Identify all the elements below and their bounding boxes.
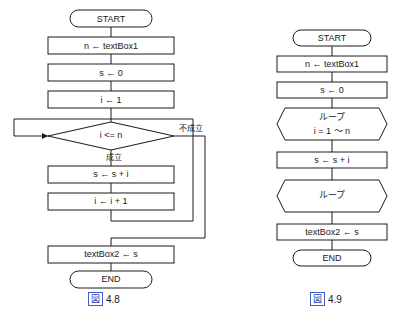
figure-4-9-caption: 図 4.9 (310, 292, 342, 306)
fig49-output-label: textBox2 ← s (305, 227, 359, 237)
fig48-condition-false-label: 不成立 (179, 123, 203, 133)
fig48-output-label: textBox2 ← s (84, 249, 138, 259)
figure-4-9-caption-number: 4.9 (328, 294, 342, 305)
fig49-sum-label: s ← s + i (314, 155, 349, 165)
fig48-exit-path (111, 136, 205, 246)
flowcharts-svg: START n ← textBox1 s ← 0 i ← 1 i <= n 不成… (0, 0, 417, 315)
figure-4-8-caption-box: 図 (88, 292, 103, 306)
fig49-init-s-label: s ← 0 (320, 85, 344, 95)
fig49-loop-end-label: ループ (319, 190, 345, 200)
fig48-increment-label: i ← i + 1 (94, 196, 127, 206)
figure-4-9: START n ← textBox1 s ← 0 ループ i = 1 ～ n s… (277, 30, 387, 266)
fig49-loop-start-label-2: i = 1 ～ n (314, 126, 350, 136)
fig48-end-label: END (101, 274, 121, 284)
figure-4-8: START n ← textBox1 s ← 0 i ← 1 i <= n 不成… (14, 10, 205, 288)
fig48-init-i-label: i ← 1 (100, 95, 121, 105)
fig48-input-label: n ← textBox1 (84, 41, 138, 51)
figure-4-8-caption: 図 4.8 (88, 292, 120, 306)
fig49-end-label: END (322, 253, 342, 263)
fig49-start-label: START (318, 33, 347, 43)
fig49-loop-start-label-1: ループ (319, 112, 345, 122)
fig48-start-label: START (97, 14, 126, 24)
figure-4-9-caption-box: 図 (310, 292, 325, 306)
diagram-canvas: START n ← textBox1 s ← 0 i ← 1 i <= n 不成… (0, 0, 417, 315)
fig48-condition-true-label: 成立 (106, 152, 122, 162)
fig48-condition-label: i <= n (100, 130, 123, 140)
fig49-input-label: n ← textBox1 (305, 59, 359, 69)
fig48-sum-label: s ← s + i (93, 169, 128, 179)
figure-4-8-caption-number: 4.8 (106, 294, 120, 305)
fig48-loopback-arrowhead (42, 133, 48, 139)
fig48-init-s-label: s ← 0 (99, 68, 123, 78)
